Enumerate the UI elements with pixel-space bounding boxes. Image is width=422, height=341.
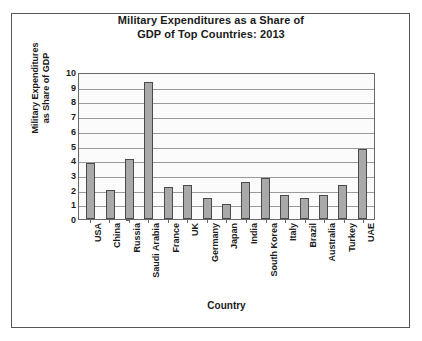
bar	[338, 185, 347, 219]
x-axis-tick-mark	[266, 219, 267, 223]
x-axis-label-slot: India	[236, 223, 256, 293]
y-axis-title-line-2: as Share of GDP	[41, 42, 52, 133]
bar	[241, 182, 250, 219]
y-axis-tick-label: 6	[71, 127, 76, 136]
x-axis-tick-mark	[246, 219, 247, 223]
x-axis-label-slot: Russia	[119, 223, 139, 293]
y-axis-title-line-1: Military Expenditures	[30, 42, 41, 133]
y-axis-tick-label: 7	[71, 113, 76, 122]
bar	[86, 163, 95, 219]
x-axis-label-slot: Saudi Arabia	[139, 223, 159, 293]
bar-slot	[256, 74, 275, 219]
bar-series	[79, 74, 374, 219]
y-axis-tick-label: 2	[71, 186, 76, 195]
x-axis-tick-mark	[129, 219, 130, 223]
y-axis-tick-label: 1	[71, 201, 76, 210]
x-axis-label-slot: USA	[80, 223, 100, 293]
x-axis-tick-mark	[207, 219, 208, 223]
y-axis-tick-label: 4	[71, 157, 76, 166]
bar	[164, 187, 173, 219]
plot-area-wrapper: Military Expenditures as Share of GDP 01…	[0, 0, 422, 341]
bar-slot	[100, 74, 119, 219]
x-axis-tick-mark	[109, 219, 110, 223]
bar-slot	[139, 74, 158, 219]
plot-area	[78, 73, 375, 220]
bar-slot	[178, 74, 197, 219]
x-axis-tick-mark	[148, 219, 149, 223]
bar	[261, 178, 270, 219]
x-axis-tick-mark	[226, 219, 227, 223]
x-axis-label-slot: France	[158, 223, 178, 293]
x-axis-label-slot: Japan	[217, 223, 237, 293]
bar	[319, 195, 328, 219]
bar	[125, 159, 134, 219]
x-axis-labels: USAChinaRussiaSaudi ArabiaFranceUKGerman…	[78, 223, 375, 293]
bar-slot	[275, 74, 294, 219]
x-axis-label-slot: UAE	[353, 223, 373, 293]
x-axis-label-slot: Turkey	[334, 223, 354, 293]
bar	[358, 149, 367, 219]
y-axis-tick-label: 10	[66, 69, 76, 78]
bar-slot	[333, 74, 352, 219]
x-axis-tick-mark	[285, 219, 286, 223]
y-axis-title: Military Expenditures as Share of GDP	[26, 15, 56, 162]
bar-slot	[314, 74, 333, 219]
x-axis-label-slot: Australia	[314, 223, 334, 293]
y-axis-ticks: 012345678910	[52, 73, 76, 220]
x-axis-label-slot: Brazil	[295, 223, 315, 293]
x-axis-title: Country	[78, 300, 375, 311]
x-axis-tick-mark	[168, 219, 169, 223]
y-axis-tick-label: 8	[71, 98, 76, 107]
x-axis-tick-mark	[363, 219, 364, 223]
x-axis-tick-label: UAE	[367, 223, 376, 242]
bar	[106, 190, 115, 219]
y-axis-tick-label: 9	[71, 83, 76, 92]
x-axis-label-slot: UK	[178, 223, 198, 293]
bar-slot	[294, 74, 313, 219]
x-axis-tick-mark	[187, 219, 188, 223]
bar-slot	[159, 74, 178, 219]
x-axis-tick-mark	[305, 219, 306, 223]
bar	[280, 195, 289, 219]
bar-slot	[197, 74, 216, 219]
x-axis-label-slot: China	[100, 223, 120, 293]
y-axis-tick-label: 5	[71, 142, 76, 151]
x-axis-tick-mark	[90, 219, 91, 223]
bar	[222, 204, 231, 219]
x-axis-tick-mark	[324, 219, 325, 223]
bar-slot	[81, 74, 100, 219]
y-axis-tick-label: 3	[71, 171, 76, 180]
bar-slot	[236, 74, 255, 219]
x-axis-label-slot: South Korea	[256, 223, 276, 293]
bar-slot	[353, 74, 372, 219]
bar-slot	[217, 74, 236, 219]
x-axis-label-slot: Italy	[275, 223, 295, 293]
x-axis-label-slot: Germany	[197, 223, 217, 293]
bar	[203, 198, 212, 219]
bar	[300, 198, 309, 219]
y-axis-tick-label: 0	[71, 216, 76, 225]
bar	[183, 185, 192, 219]
bar	[144, 82, 153, 219]
bar-slot	[120, 74, 139, 219]
x-axis-tick-mark	[344, 219, 345, 223]
